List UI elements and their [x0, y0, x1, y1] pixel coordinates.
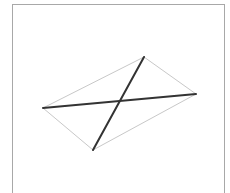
- diagram-canvas: [0, 0, 230, 193]
